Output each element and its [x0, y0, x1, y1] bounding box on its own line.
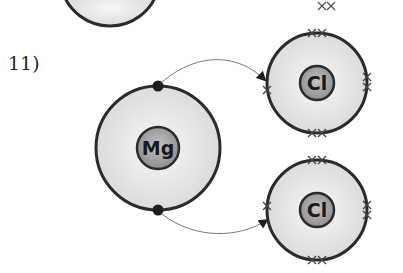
partial-crosses-top-right: [318, 2, 335, 10]
arrow-mg-to-cl-bottom: [162, 214, 267, 234]
mg-symbol: Mg: [142, 137, 175, 159]
question-number: 11): [8, 52, 40, 74]
atom-cl-bottom: Cl: [263, 156, 371, 264]
atom-cl-top: Cl: [263, 29, 371, 137]
cl-bottom-symbol: Cl: [307, 199, 327, 221]
cl-top-symbol: Cl: [307, 72, 327, 94]
diagram-canvas: Mg Cl Cl: [0, 0, 403, 273]
mg-electron-top: [153, 81, 164, 92]
atom-mg: Mg: [96, 81, 220, 216]
partial-atom-top-left: [62, 0, 158, 26]
mg-electron-bottom: [153, 205, 164, 216]
arrow-mg-to-cl-top: [162, 60, 265, 82]
